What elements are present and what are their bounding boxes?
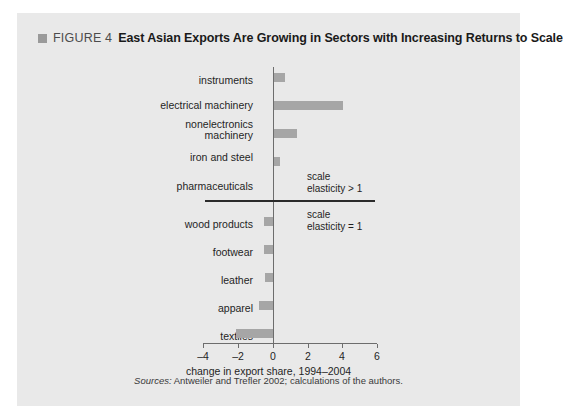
- x-tick-label: 4: [327, 350, 357, 362]
- bar-iron-and-steel: [273, 157, 280, 166]
- category-label: apparel: [73, 303, 253, 314]
- x-tick-label: 2: [293, 350, 323, 362]
- figure-panel: FIGURE 4 East Asian Exports Are Growing …: [17, 13, 520, 406]
- source-note: Sources: Antweiler and Trefler 2002; cal…: [17, 375, 520, 386]
- category-label: leather: [73, 275, 253, 286]
- x-tick-label: 6: [362, 350, 392, 362]
- category-label: electrical machinery: [73, 100, 253, 111]
- category-label: footwear: [73, 247, 253, 258]
- x-tick-label: 0: [258, 350, 288, 362]
- category-label: textiles: [73, 331, 253, 342]
- bar-footwear: [264, 245, 273, 254]
- x-tick: [273, 344, 274, 348]
- x-tick: [342, 344, 343, 348]
- x-tick-label: –4: [188, 350, 218, 362]
- bar-apparel: [259, 301, 273, 310]
- x-axis-line: [203, 343, 377, 344]
- bar-nonelectronics-machinery: [273, 129, 297, 138]
- category-label: instruments: [73, 75, 253, 86]
- category-label: iron and steel: [73, 152, 253, 163]
- annotation-scale-elasticity-equal: scale elasticity = 1: [307, 209, 362, 233]
- category-label: pharmaceuticals: [73, 181, 253, 192]
- chart-plot-area: instruments electrical machinery nonelec…: [17, 13, 520, 406]
- source-prefix: Sources:: [134, 375, 172, 386]
- x-tick: [377, 344, 378, 348]
- x-tick: [203, 344, 204, 348]
- group-divider-line: [205, 200, 375, 202]
- bar-wood-products: [264, 217, 273, 226]
- bar-leather: [265, 273, 273, 282]
- zero-axis-line: [273, 67, 274, 343]
- x-tick: [238, 344, 239, 348]
- bar-electrical-machinery: [273, 101, 343, 110]
- bar-instruments: [273, 73, 285, 82]
- category-label: wood products: [73, 219, 253, 230]
- x-tick: [308, 344, 309, 348]
- bar-textiles: [236, 329, 273, 338]
- x-tick-label: –2: [223, 350, 253, 362]
- annotation-scale-elasticity-greater: scale elasticity > 1: [307, 171, 362, 195]
- source-text: Antweiler and Trefler 2002; calculations…: [172, 375, 403, 386]
- category-label: nonelectronics machinery: [73, 119, 253, 141]
